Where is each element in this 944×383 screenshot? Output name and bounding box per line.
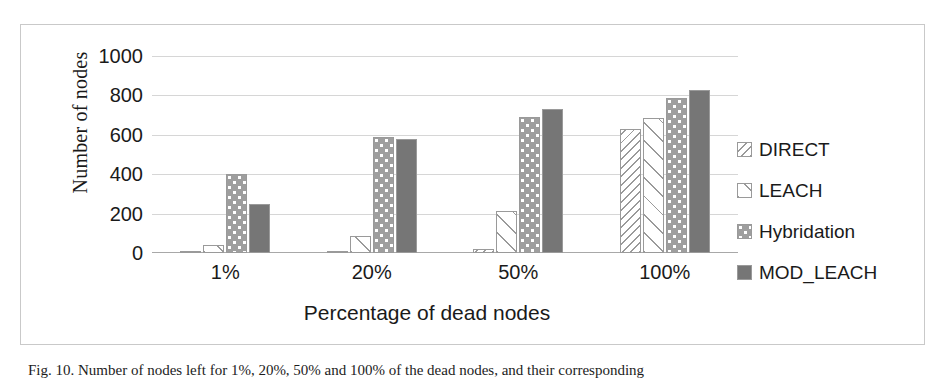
x-axis-tick-labels: 1%20%50%100% xyxy=(152,261,738,284)
legend-label-leach: LEACH xyxy=(759,180,822,202)
legend-label-hybridation: Hybridation xyxy=(759,221,855,243)
bar-group-20pct xyxy=(299,56,446,253)
plot-area xyxy=(152,56,738,253)
y-axis-tick-0: 0 xyxy=(132,243,143,263)
bar-mod_leach-1pct[interactable] xyxy=(249,204,270,253)
bar-mod_leach-20pct[interactable] xyxy=(396,139,417,253)
bar-hybridation-1pct[interactable] xyxy=(226,174,247,253)
y-axis-tick-600: 600 xyxy=(110,125,143,145)
bar-leach-1pct[interactable] xyxy=(203,245,224,253)
bar-direct-100pct[interactable] xyxy=(620,129,641,253)
legend-item-direct[interactable]: DIRECT xyxy=(737,129,927,170)
legend-item-hybridation[interactable]: Hybridation xyxy=(737,211,927,252)
legend-label-mod_leach: MOD_LEACH xyxy=(759,262,877,284)
bar-group-50pct xyxy=(445,56,592,253)
chart-figure-frame: Number of nodes 02004006008001000 1%20%5… xyxy=(20,24,925,345)
bar-direct-50pct[interactable] xyxy=(473,249,494,253)
x-axis-tick-50pct: 50% xyxy=(445,261,592,284)
legend-item-leach[interactable]: LEACH xyxy=(737,170,927,211)
x-axis-tick-20pct: 20% xyxy=(299,261,446,284)
x-axis-tick-1pct: 1% xyxy=(152,261,299,284)
legend-label-direct: DIRECT xyxy=(759,139,830,161)
bar-direct-1pct[interactable] xyxy=(180,251,201,253)
bar-group-1pct xyxy=(152,56,299,253)
bar-hybridation-100pct[interactable] xyxy=(666,98,687,253)
x-axis-title: Percentage of dead nodes xyxy=(107,301,747,325)
y-axis-tick-800: 800 xyxy=(110,85,143,105)
bar-groups xyxy=(152,56,738,253)
bar-hybridation-50pct[interactable] xyxy=(519,117,540,253)
bar-direct-20pct[interactable] xyxy=(327,251,348,253)
legend-swatch-direct-icon xyxy=(737,142,752,157)
bar-leach-50pct[interactable] xyxy=(496,211,517,253)
y-axis-tick-400: 400 xyxy=(110,164,143,184)
bar-leach-100pct[interactable] xyxy=(643,118,664,253)
bar-hybridation-20pct[interactable] xyxy=(373,137,394,253)
y-axis-tick-1000: 1000 xyxy=(99,46,144,66)
bar-leach-20pct[interactable] xyxy=(350,236,371,253)
y-axis-tick-200: 200 xyxy=(110,204,143,224)
figure-caption: Fig. 10. Number of nodes left for 1%, 20… xyxy=(28,362,918,379)
bar-mod_leach-50pct[interactable] xyxy=(542,109,563,253)
x-axis-tick-100pct: 100% xyxy=(592,261,739,284)
chart-legend: DIRECTLEACHHybridationMOD_LEACH xyxy=(737,129,927,293)
legend-swatch-hybridation-icon xyxy=(737,224,752,239)
legend-item-mod_leach[interactable]: MOD_LEACH xyxy=(737,252,927,293)
legend-swatch-leach-icon xyxy=(737,183,752,198)
bar-mod_leach-100pct[interactable] xyxy=(689,90,710,253)
legend-swatch-mod_leach-icon xyxy=(737,265,752,280)
y-axis-tick-labels: 02004006008001000 xyxy=(77,31,143,271)
bar-group-100pct xyxy=(592,56,739,253)
